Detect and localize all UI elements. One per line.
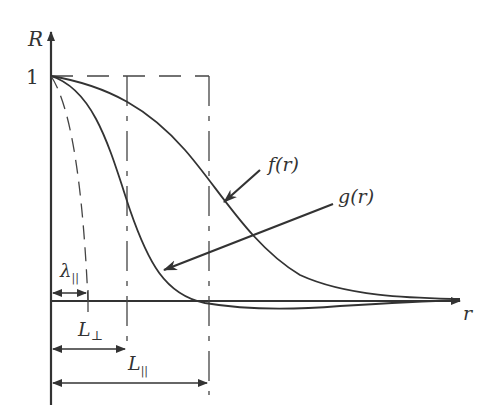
g-curve [51,76,460,308]
y-tick-one: 1 [26,65,39,89]
lambda-par-label: λ|| [59,260,79,285]
f-pointer-arrow [224,170,260,202]
f-curve-label: f(r) [266,153,299,175]
correlation-diagram: R r 1 f(r) g(r) λ|| L⊥ L|| [0,0,497,417]
g-curve-label: g(r) [338,185,374,207]
l-par-label: L|| [127,352,148,378]
l-perp-label: L⊥ [77,318,103,343]
x-axis-label: r [463,302,474,324]
f-curve [51,76,460,299]
y-axis-label: R [27,27,43,51]
g-pointer-arrow [164,204,333,270]
